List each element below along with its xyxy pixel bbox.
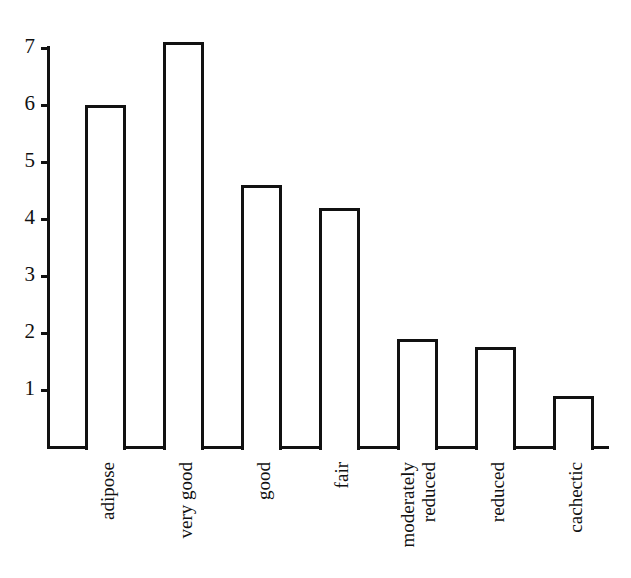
y-axis-tick-label: 1 bbox=[9, 378, 35, 399]
y-axis-tick-label: 6 bbox=[9, 93, 35, 114]
y-axis-tick-label: 7 bbox=[9, 36, 35, 57]
category-label-line: cachectic bbox=[565, 462, 586, 578]
category-label-line: adipose bbox=[97, 462, 118, 578]
x-axis-category-label: good bbox=[253, 462, 271, 578]
bar-chart: 1234567 adiposevery goodgoodfairmoderate… bbox=[0, 0, 631, 578]
category-label-line: very good bbox=[175, 462, 196, 578]
y-axis-tick bbox=[41, 47, 48, 50]
y-axis-tick bbox=[41, 218, 48, 221]
category-label-line: fair bbox=[331, 462, 352, 578]
bar bbox=[397, 339, 438, 450]
y-axis-tick bbox=[41, 104, 48, 107]
y-axis-tick-label: 5 bbox=[9, 150, 35, 171]
x-axis-category-label: reduced bbox=[487, 462, 505, 578]
y-axis-tick-label: 3 bbox=[9, 264, 35, 285]
y-axis-tick bbox=[41, 389, 48, 392]
category-label-line: good bbox=[253, 462, 274, 578]
y-axis-tick bbox=[41, 275, 48, 278]
category-label-line: reduced bbox=[418, 462, 439, 578]
bar bbox=[475, 347, 516, 450]
x-axis-category-label: very good bbox=[175, 462, 193, 578]
y-axis-tick-label: 4 bbox=[9, 207, 35, 228]
bar bbox=[553, 396, 594, 450]
y-axis-tick bbox=[41, 332, 48, 335]
bar bbox=[319, 208, 360, 450]
x-axis-category-label: cachectic bbox=[565, 462, 583, 578]
y-axis-tick-label: 2 bbox=[9, 321, 35, 342]
x-axis-category-label: moderatelyreduced bbox=[397, 462, 437, 578]
bar bbox=[163, 42, 204, 450]
x-axis-category-label: fair bbox=[331, 462, 349, 578]
bar bbox=[85, 105, 126, 450]
y-axis-tick bbox=[41, 161, 48, 164]
category-label-line: reduced bbox=[487, 462, 508, 578]
category-label-line: moderately bbox=[397, 462, 418, 578]
bar bbox=[241, 185, 282, 450]
x-axis-category-label: adipose bbox=[97, 462, 115, 578]
